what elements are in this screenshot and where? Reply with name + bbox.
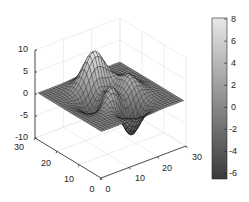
z-tick-label: 10 xyxy=(18,44,28,54)
surface-plot-figure: 10 5 0 -5 -10 30 20 10 0 0 10 20 30 xyxy=(0,0,249,202)
colorbar: 8 6 4 2 0 -2 -4 -6 xyxy=(212,14,237,179)
x-tick-label: 10 xyxy=(135,173,145,183)
colorbar-tick-label: 2 xyxy=(231,80,236,90)
z-tick-label: 0 xyxy=(23,88,28,98)
colorbar-tick-label: 4 xyxy=(231,58,236,68)
x-tick-label: 30 xyxy=(192,152,202,162)
peaks-surface xyxy=(38,51,184,135)
z-tick-label: 5 xyxy=(23,66,28,76)
y-tick-label: 30 xyxy=(14,142,24,152)
surface-plot: 10 5 0 -5 -10 30 20 10 0 0 10 20 30 xyxy=(0,0,249,202)
colorbar-tick-label: 0 xyxy=(231,102,236,112)
colorbar-tick-label: 6 xyxy=(231,36,236,46)
y-tick-label: 10 xyxy=(64,174,74,184)
colorbar-gradient xyxy=(212,18,227,179)
colorbar-tick-label: 8 xyxy=(231,14,236,24)
x-tick-label: 20 xyxy=(162,163,172,173)
colorbar-tick-label: -6 xyxy=(229,168,237,178)
x-tick-label: 0 xyxy=(105,184,110,194)
y-tick-label: 20 xyxy=(41,158,51,168)
y-tick-label: 0 xyxy=(89,184,94,194)
z-axis-tick-labels: 10 5 0 -5 -10 xyxy=(15,44,28,142)
z-tick-label: -10 xyxy=(15,132,28,142)
z-tick-label: -5 xyxy=(20,110,28,120)
colorbar-tick-label: -2 xyxy=(229,124,237,134)
colorbar-tick-label: -4 xyxy=(229,146,237,156)
